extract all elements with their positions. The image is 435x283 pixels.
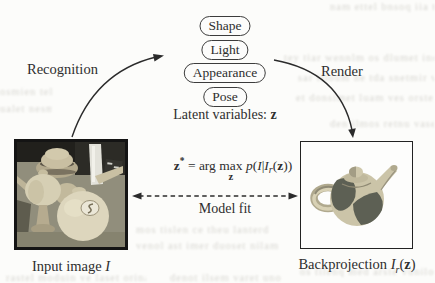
render-label: Render [321, 63, 363, 80]
latent-box-appearance: Appearance [184, 63, 266, 83]
backprojection-image [300, 141, 413, 249]
bleed-text-line: et donsimet luam ves orsten bi [296, 92, 434, 103]
input-caption-I-symbol: I [105, 258, 110, 274]
backproj-caption-paren-close: ) [411, 256, 416, 272]
latent-variables-label: Latent variables: z [173, 107, 276, 123]
bleed-text-line: ualet nesm [0, 103, 52, 114]
latent-z-symbol: z [270, 107, 276, 122]
input-image-caption: Input image I [14, 258, 128, 275]
bleed-text-line: venol ast imer duoset nilam [136, 240, 294, 251]
input-image [14, 139, 128, 250]
bleed-text-line: sar illoum ne tda snetmir vo [298, 72, 434, 83]
input-caption-text: Input image [32, 258, 102, 274]
bleed-text-line: denot ilsem varet uno [170, 272, 290, 283]
eq-arg: arg [199, 158, 216, 173]
eq-equals: = [188, 158, 196, 173]
model-fit-label: Model fit [199, 201, 252, 217]
bleed-text-line: osmien tel [0, 86, 58, 97]
backproj-caption-text: Backprojection [298, 256, 387, 272]
recognition-label: Recognition [27, 61, 98, 78]
latent-box-shape: Shape [200, 16, 251, 36]
paper-figure: nam ettel bnsoq iia tcdam err tey tiar w… [0, 0, 435, 283]
bleed-text-line: tey tiar wennlm os dlumet ineq [284, 52, 434, 63]
teapots-photo-graphic [17, 142, 125, 247]
latent-label-text: Latent variables: [173, 107, 267, 122]
bleed-text-line: nam ettel bnsoq iia tcdam err [330, 1, 434, 12]
eq-p: p [246, 158, 253, 173]
bleed-text-line: den ilmos retnu vaseq tilen [330, 118, 434, 129]
eq-close: )) [283, 158, 292, 173]
map-equation: z* = arg maxz p(I|Ir(z)) [140, 156, 326, 175]
rendered-teapot-graphic [301, 142, 411, 247]
eq-star: * [180, 156, 185, 166]
bleed-text-line: mos tislen ce theu lanterd [136, 224, 294, 235]
model-fit-arrow [132, 193, 298, 200]
eq-max-subscript-z: z [229, 171, 234, 182]
latent-box-pose: Pose [203, 87, 247, 107]
backprojection-caption: Backprojection Ir(z) [287, 256, 427, 275]
eq-max-operator: maxz [219, 158, 242, 174]
latent-box-light: Light [201, 40, 248, 60]
